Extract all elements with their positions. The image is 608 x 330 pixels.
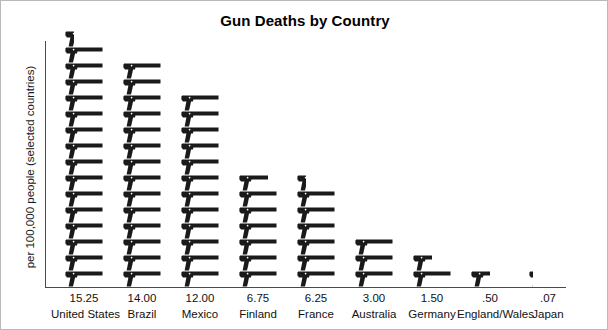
x-axis-tick-group: 15.25United States (51, 290, 117, 322)
pistol-icon-partial (64, 31, 74, 47)
pistol-icon (64, 127, 104, 143)
pistol-icon (412, 271, 452, 287)
pistol-icon (180, 95, 220, 111)
pictogram-column (55, 31, 113, 287)
pistol-icon-partial (412, 255, 432, 271)
pistol-icon (180, 175, 220, 191)
pistol-icon (122, 207, 162, 223)
pistol-icon-partial (296, 175, 306, 191)
x-axis-category-label: Australia (341, 306, 407, 322)
pistol-icon (296, 223, 336, 239)
x-axis-labels: 15.25United States14.00Brazil12.00Mexico… (45, 290, 566, 330)
x-axis-value-label: .50 (457, 290, 523, 306)
x-axis-value-label: 6.75 (225, 290, 291, 306)
pictogram-column (345, 239, 403, 287)
pistol-icon (122, 111, 162, 127)
x-axis-value-label: 6.25 (283, 290, 349, 306)
pistol-icon (122, 159, 162, 175)
pistol-icon (122, 191, 162, 207)
plot-area (45, 37, 566, 287)
y-axis-label: per 100,000 people (selected countries) (24, 52, 36, 282)
pistol-icon (180, 239, 220, 255)
pistol-icon (64, 223, 104, 239)
pictogram-column (113, 63, 171, 287)
x-axis-tick-group: 14.00Brazil (109, 290, 175, 322)
pistol-icon (64, 255, 104, 271)
pictogram-column (403, 255, 461, 287)
pistol-icon (238, 255, 278, 271)
x-axis-tick-group: 3.00Australia (341, 290, 407, 322)
x-axis-category-label: Japan (515, 306, 581, 322)
pistol-icon (64, 159, 104, 175)
pistol-icon (64, 207, 104, 223)
x-axis-category-label: United States (51, 306, 117, 322)
pistol-icon (180, 111, 220, 127)
pistol-icon (122, 271, 162, 287)
pistol-icon (64, 239, 104, 255)
pistol-icon (64, 191, 104, 207)
pistol-icon (296, 191, 336, 207)
pictogram-column (461, 271, 519, 287)
pistol-icon (122, 79, 162, 95)
pictogram-column (287, 175, 345, 287)
pistol-icon (64, 79, 104, 95)
x-axis-tick-group: .50England/Wales (457, 290, 523, 322)
pistol-icon (354, 271, 394, 287)
pistol-icon (64, 143, 104, 159)
x-axis-value-label: 12.00 (167, 290, 233, 306)
pistol-icon (64, 47, 104, 63)
pistol-icon (180, 223, 220, 239)
x-axis-tick-group: .07Japan (515, 290, 581, 322)
pistol-icon (122, 63, 162, 79)
pistol-icon (354, 255, 394, 271)
chart-frame: Gun Deaths by Country per 100,000 people… (0, 0, 608, 330)
pistol-icon (238, 191, 278, 207)
pistol-icon (180, 255, 220, 271)
pictogram-column (519, 271, 577, 287)
x-axis-value-label: .07 (515, 290, 581, 306)
x-axis-tick-group: 6.75Finland (225, 290, 291, 322)
x-axis-category-label: Mexico (167, 306, 233, 322)
x-axis-value-label: 15.25 (51, 290, 117, 306)
pistol-icon (296, 239, 336, 255)
pistol-icon (64, 271, 104, 287)
pistol-icon-partial (528, 271, 533, 287)
x-axis-value-label: 1.50 (399, 290, 465, 306)
pistol-icon (238, 239, 278, 255)
pistol-icon (122, 239, 162, 255)
pistol-icon (180, 127, 220, 143)
pistol-icon (122, 255, 162, 271)
pistol-icon (238, 223, 278, 239)
pistol-icon (64, 63, 104, 79)
pistol-icon (122, 223, 162, 239)
pistol-icon (238, 271, 278, 287)
pictogram-column (171, 95, 229, 287)
pictogram-column (229, 175, 287, 287)
x-axis-value-label: 14.00 (109, 290, 175, 306)
pistol-icon (122, 95, 162, 111)
x-axis-tick-group: 6.25France (283, 290, 349, 322)
pistol-icon (354, 239, 394, 255)
x-axis-category-label: England/Wales (457, 306, 523, 322)
pistol-icon-partial (470, 271, 490, 287)
pistol-icon (180, 271, 220, 287)
x-axis-category-label: Germany (399, 306, 465, 322)
chart-title: Gun Deaths by Country (1, 12, 608, 29)
pistol-icon (64, 95, 104, 111)
pistol-icon (64, 111, 104, 127)
pistol-icon (122, 127, 162, 143)
x-axis-category-label: Finland (225, 306, 291, 322)
pistol-icon-partial (238, 175, 268, 191)
pistol-icon (180, 143, 220, 159)
pistol-icon (238, 207, 278, 223)
pistol-icon (296, 271, 336, 287)
pistol-icon (296, 207, 336, 223)
pistol-icon (122, 175, 162, 191)
pistol-icon (64, 175, 104, 191)
pistol-icon (122, 143, 162, 159)
pistol-icon (180, 207, 220, 223)
pistol-icon (180, 159, 220, 175)
pistol-icon (180, 191, 220, 207)
x-axis-category-label: France (283, 306, 349, 322)
x-axis-value-label: 3.00 (341, 290, 407, 306)
